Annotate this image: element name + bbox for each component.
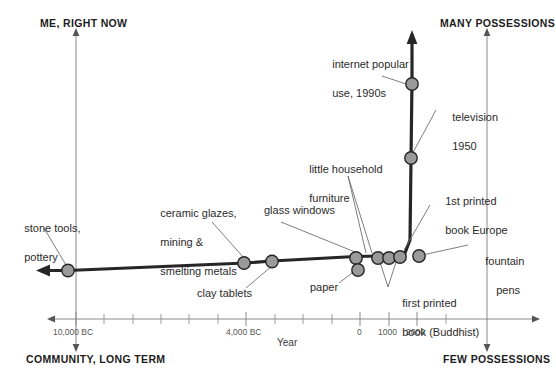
axis-pole-label-many-possessions: MANY POSSESSIONS — [440, 17, 555, 29]
annotation-first-printed-buddhist-line2: book (Buddhist) — [402, 326, 479, 338]
x-tick-label-10000bc: 10,000 BC — [53, 327, 93, 337]
annotation-ceramic-glazes-line1: ceramic glazes, — [160, 207, 236, 219]
x-tick-label-4000bc: 4,000 BC — [226, 327, 261, 337]
annotation-first-printed-europe-line1: 1st printed — [445, 195, 496, 207]
annotation-television-line2: 1950 — [452, 140, 476, 152]
axis-pole-label-me-right-now: ME, RIGHT NOW — [40, 17, 127, 29]
annotation-television: television 1950 — [440, 95, 498, 168]
annotation-paper: paper — [310, 280, 338, 295]
annotation-fountain-pens-line2: pens — [485, 283, 520, 298]
x-tick-label-0: 0 — [357, 327, 362, 337]
annotation-little-household-line1: little household — [309, 163, 382, 175]
axis-pole-label-few-possessions: FEW POSSESSIONS — [443, 353, 550, 365]
chart-container: ME, RIGHT NOW MANY POSSESSIONS COMMUNITY… — [0, 0, 556, 379]
vertical-pole-axis — [73, 28, 80, 352]
annotation-stone-tools: stone tools, pottery — [12, 206, 81, 279]
annotation-ceramic-glazes: ceramic glazes, mining & smelting metals — [148, 191, 237, 293]
annotation-fountain-pens: fountain pens — [473, 239, 524, 312]
axis-pole-label-community-long-term: COMMUNITY, LONG TERM — [26, 353, 165, 365]
annotation-television-line1: television — [452, 111, 498, 123]
annotation-clay-tablets: clay tablets — [197, 286, 252, 301]
annotation-ceramic-glazes-line2: mining & — [160, 236, 203, 248]
annotation-little-household-furniture: little household furniture — [297, 147, 383, 220]
annotation-stone-tools-line2: pottery — [24, 251, 58, 263]
annotation-first-printed-book-buddhist: first printed book (Buddhist) — [390, 281, 479, 354]
annotation-internet-line2: use, 1990s — [332, 87, 386, 99]
x-axis-title-year: Year — [277, 337, 297, 348]
annotation-ceramic-glazes-line3: smelting metals — [160, 265, 236, 277]
annotation-first-printed-buddhist-line1: first printed — [402, 297, 456, 309]
annotation-internet: internet popular use, 1990s — [320, 42, 409, 115]
annotation-first-printed-europe-line2: book Europe — [445, 224, 507, 236]
annotation-fountain-pens-line1: fountain — [485, 255, 524, 267]
annotation-stone-tools-line1: stone tools, — [24, 222, 80, 234]
annotation-internet-line1: internet popular — [332, 58, 408, 70]
annotation-little-household-line2: furniture — [309, 192, 349, 204]
